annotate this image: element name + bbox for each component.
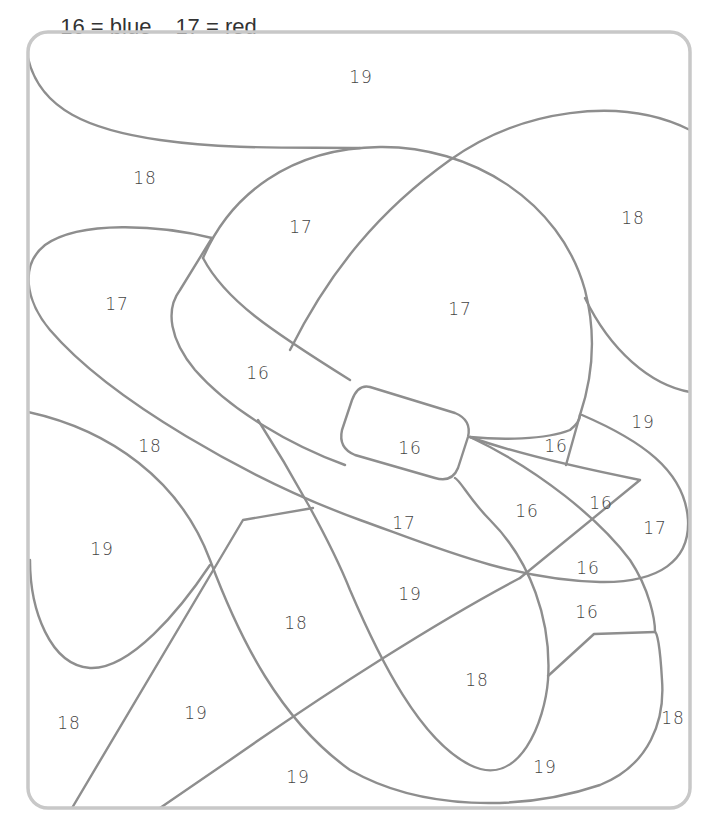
region-number-label: 16	[398, 438, 422, 458]
region-number-label: 16	[515, 501, 539, 521]
region-number-label: 19	[631, 412, 655, 432]
region-number-label: 17	[289, 217, 313, 237]
region-number-label: 16	[575, 602, 599, 622]
region-number-label: 18	[621, 208, 645, 228]
region-number-label: 17	[392, 513, 416, 533]
region-number-label: 16	[576, 558, 600, 578]
region-number-label: 19	[398, 584, 422, 604]
region-number-label: 16	[246, 363, 270, 383]
hat-outline-drawing	[28, 58, 690, 808]
region-number-label: 19	[184, 703, 208, 723]
region-number-label: 16	[544, 436, 568, 456]
region-number-label: 18	[465, 670, 489, 690]
region-number-label: 18	[133, 168, 157, 188]
region-number-label: 19	[533, 757, 557, 777]
region-number-label: 19	[286, 767, 310, 787]
region-number-label: 18	[57, 713, 81, 733]
region-number-label: 18	[661, 708, 685, 728]
region-number-label: 19	[90, 539, 114, 559]
region-number-label: 18	[138, 436, 162, 456]
region-number-label: 16	[589, 493, 613, 513]
coloring-page-artwork	[0, 0, 714, 833]
region-number-label: 17	[643, 518, 667, 538]
region-number-label: 17	[448, 299, 472, 319]
region-number-label: 17	[105, 294, 129, 314]
region-number-label: 18	[284, 613, 308, 633]
region-number-label: 19	[349, 67, 373, 87]
